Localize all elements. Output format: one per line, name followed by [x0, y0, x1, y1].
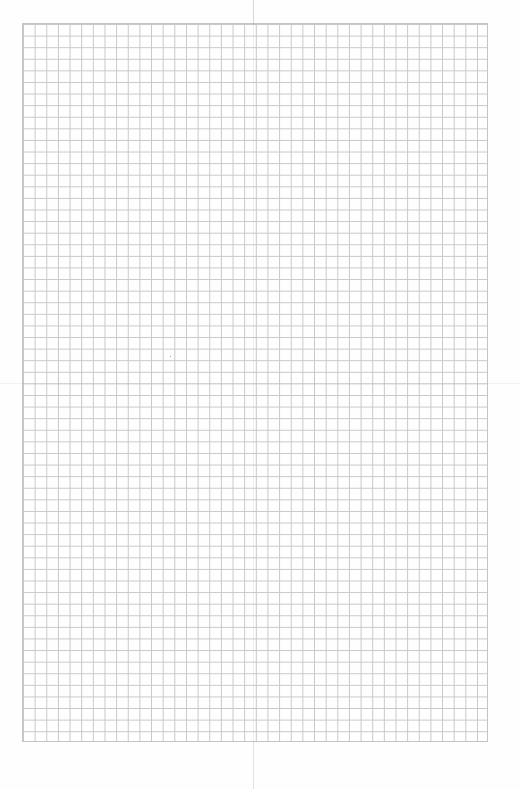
horizontal-fold-line: [0, 383, 520, 384]
vertical-fold-line: [253, 0, 254, 789]
fold-mark-top: [253, 0, 254, 23]
speck: [170, 356, 171, 357]
grid-paper-page: [0, 0, 520, 789]
fold-mark-bottom: [253, 742, 254, 789]
